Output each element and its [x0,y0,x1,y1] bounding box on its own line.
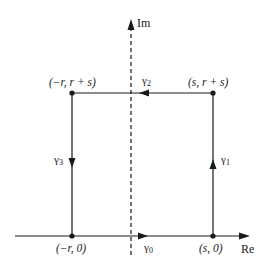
gamma3-label: γ3 [53,153,63,167]
real-axis-label: Re [241,242,254,256]
imaginary-axis-label: Im [137,16,151,30]
vertex-top-right [210,90,215,95]
segment-gamma2 [72,90,213,97]
imaginary-axis-arrow-icon [128,19,135,30]
vertex-label-top-right: (s, r + s) [188,76,229,89]
vertex-label-bottom-left: (−r, 0) [56,242,86,255]
real-axis-arrow-icon [239,233,250,240]
imaginary-axis [128,19,135,255]
gamma0-label: γ0 [143,241,153,255]
left-arrow-icon [139,90,149,97]
vertex-bottom-right [210,233,215,238]
vertex-top-left [69,90,74,95]
vertex-bottom-left [69,233,74,238]
contour-diagram: Im Re γ2 γ3 γ1 γ0 (−r, r + s) (s, r + s)… [0,0,269,269]
right-arrow-icon [138,233,148,240]
up-arrow-icon [210,159,217,169]
gamma2-label: γ2 [141,74,151,88]
down-arrow-icon [69,158,76,168]
segment-gamma0 [138,233,148,240]
gamma1-label: γ1 [220,153,230,167]
segment-gamma3 [69,93,76,236]
segment-gamma1 [210,93,217,236]
vertex-label-top-left: (−r, r + s) [49,76,96,89]
vertex-label-bottom-right: (s, 0) [199,242,223,255]
